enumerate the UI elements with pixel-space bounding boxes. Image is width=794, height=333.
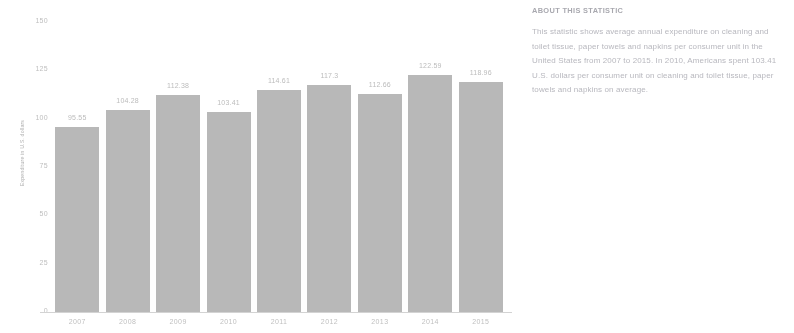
bar-value-label: 122.59 [400, 62, 460, 69]
bar-rect[interactable] [307, 85, 351, 312]
bar[interactable] [106, 110, 150, 312]
about-heading: ABOUT THIS STATISTIC [532, 6, 788, 15]
about-this-statistic-panel: ABOUT THIS STATISTIC This statistic show… [532, 6, 788, 98]
y-axis-tick-label: 25 [14, 259, 48, 266]
bar-value-label: 112.38 [148, 82, 208, 89]
bar[interactable] [207, 112, 251, 312]
bar[interactable] [459, 82, 503, 312]
bar-value-label: 103.41 [199, 99, 259, 106]
bar[interactable] [55, 127, 99, 312]
bar-value-label: 117.3 [299, 72, 359, 79]
bar-value-label: 95.55 [47, 114, 107, 121]
bar-rect[interactable] [358, 94, 402, 312]
bar-rect[interactable] [408, 75, 452, 312]
bar[interactable] [257, 90, 301, 312]
y-axis-tick-label: 75 [14, 162, 48, 169]
bar-rect[interactable] [55, 127, 99, 312]
bar[interactable] [156, 95, 200, 312]
bar-chart: Expenditure in U.S. dollars 025507510012… [0, 0, 516, 333]
bar-rect[interactable] [459, 82, 503, 312]
bar-rect[interactable] [257, 90, 301, 312]
about-body-text: This statistic shows average annual expe… [532, 25, 788, 98]
y-axis-title: Expenditure in U.S. dollars [19, 53, 25, 253]
bar-rect[interactable] [156, 95, 200, 312]
bar[interactable] [358, 94, 402, 312]
bar[interactable] [408, 75, 452, 312]
bar-rect[interactable] [106, 110, 150, 312]
y-axis-tick-label: 50 [14, 210, 48, 217]
y-axis-tick-label: 125 [14, 65, 48, 72]
statistic-page: Expenditure in U.S. dollars 025507510012… [0, 0, 794, 333]
y-axis-tick-label: 100 [14, 114, 48, 121]
bar[interactable] [307, 85, 351, 312]
bar-rect[interactable] [207, 112, 251, 312]
x-axis-tick-label: 2015 [451, 318, 511, 325]
bar-value-label: 112.66 [350, 81, 410, 88]
bar-value-label: 118.96 [451, 69, 511, 76]
y-axis-tick-label: 150 [14, 17, 48, 24]
bar-value-label: 104.28 [98, 97, 158, 104]
